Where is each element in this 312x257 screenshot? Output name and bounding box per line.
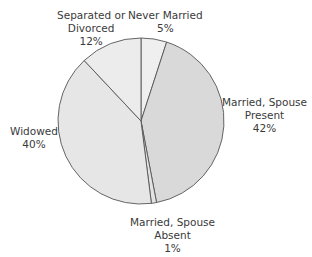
label-separated-divorced: Separated or Divorced 12% bbox=[57, 9, 125, 48]
label-never-married: Never Married 5% bbox=[128, 9, 203, 35]
label-married-spouse-absent: Married, Spouse Absent 1% bbox=[130, 216, 215, 255]
label-married-spouse-present: Married, Spouse Present 42% bbox=[222, 96, 307, 135]
label-widowed: Widowed 40% bbox=[10, 125, 58, 151]
